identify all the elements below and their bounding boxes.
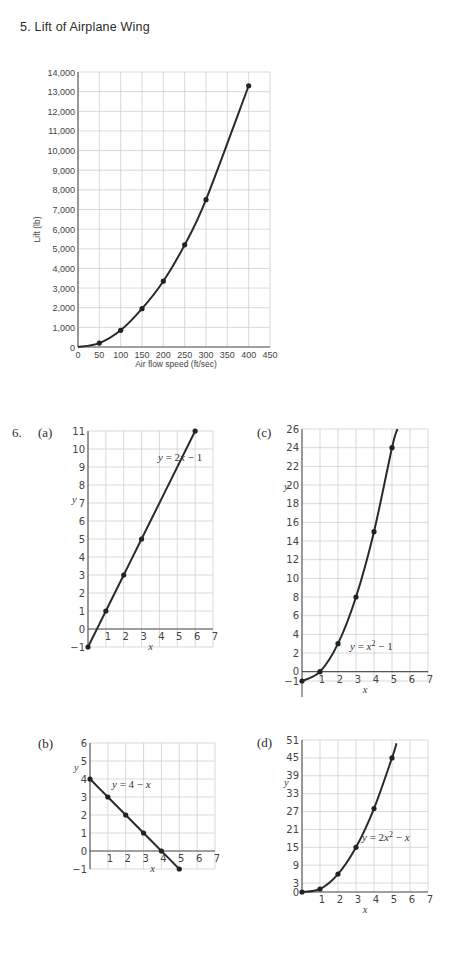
gridlines: [302, 740, 428, 892]
x-tick-label: 1: [105, 631, 111, 642]
x-axis-label: x: [362, 684, 368, 695]
y-tick-label: 27: [286, 806, 299, 817]
data-point: [118, 328, 123, 333]
y-tick-label: 15: [286, 842, 299, 853]
y-tick-label: 4,000: [52, 264, 75, 274]
y-tick-label: 5: [79, 534, 85, 545]
data-point: [353, 594, 358, 599]
x-tick-label: 2: [337, 894, 343, 905]
y-tick-label: 6: [293, 610, 299, 621]
y-tick-label: 26: [286, 424, 299, 435]
y-tick-label: 8: [293, 592, 299, 603]
y-tick-label: 1,000: [52, 323, 75, 333]
data-point: [139, 536, 144, 541]
x-tick-label: 4: [373, 674, 379, 685]
y-tick-label: 4: [81, 774, 87, 785]
equation-label: y = x2 − 1: [349, 639, 393, 653]
data-point: [139, 306, 144, 311]
y-tick-label: 14,000: [47, 68, 75, 78]
data-point: [87, 776, 92, 781]
x-tick-label: 7: [212, 631, 218, 642]
x-tick-label: 6: [196, 853, 202, 864]
y-tick-label: 3: [81, 792, 87, 803]
y-tick-label: 0: [293, 666, 299, 677]
data-point: [299, 678, 304, 683]
y-tick-label: 9,000: [52, 166, 75, 176]
data-point: [105, 794, 110, 799]
x-tick-label: 350: [220, 350, 235, 360]
data-point: [317, 669, 322, 674]
y-tick-label: 4: [293, 629, 299, 640]
x-tick-label: 400: [241, 350, 256, 360]
y-tick-label: 2,000: [52, 303, 75, 313]
data-point: [353, 845, 358, 850]
gridlines: [88, 431, 213, 647]
y-tick-label: 2: [293, 648, 299, 659]
chart-b: −101234561234567xyy = 4 − x: [72, 738, 220, 875]
y-tick-label: 51: [286, 735, 299, 746]
y-tick-label: 7,000: [52, 205, 75, 215]
data-curve: [90, 779, 179, 869]
y-tick-label: 7: [79, 498, 85, 509]
data-point: [85, 644, 90, 649]
y-tick-label: 5,000: [52, 244, 75, 254]
x-tick-label: 5: [176, 631, 182, 642]
data-point: [97, 340, 102, 345]
data-point: [299, 889, 304, 894]
y-tick-label: 33: [286, 788, 299, 799]
y-tick-label: 22: [286, 461, 299, 472]
y-tick-label: 21: [286, 824, 299, 835]
x-tick-label: 3: [355, 674, 361, 685]
data-point: [389, 445, 394, 450]
y-tick-label: 12,000: [47, 107, 75, 117]
y-tick-label: 0: [70, 343, 75, 353]
x-tick-label: 6: [409, 674, 415, 685]
y-tick-label: 13,000: [47, 87, 75, 97]
data-point: [177, 866, 182, 871]
gridlines: [78, 72, 270, 347]
data-point: [121, 572, 126, 577]
y-tick-label: 3,000: [52, 284, 75, 294]
y-tick-label: 3: [79, 570, 85, 581]
x-axis-label: x: [149, 863, 155, 874]
x-tick-label: 450: [262, 350, 277, 360]
x-tick-label: 100: [113, 350, 128, 360]
y-tick-label: 16: [286, 517, 299, 528]
data-point: [159, 848, 164, 853]
x-tick-label: 5: [391, 894, 397, 905]
chart-lift: 01,0002,0003,0004,0005,0006,0007,0008,00…: [32, 68, 278, 370]
y-tick-label: 0: [81, 846, 87, 857]
y-tick-label: −1: [70, 642, 85, 653]
y-tick-label: 2: [81, 810, 87, 821]
data-point: [123, 812, 128, 817]
y-tick-label: 45: [286, 752, 299, 763]
x-tick-label: 1: [107, 853, 113, 864]
data-point: [389, 755, 394, 760]
y-tick-label: 12: [286, 554, 299, 565]
data-point: [141, 830, 146, 835]
chart-c: −1024681012141618202224261234567xyy = x2…: [283, 424, 433, 698]
data-point: [103, 608, 108, 613]
x-axis-label: x: [362, 904, 368, 915]
y-tick-label: 5: [81, 756, 87, 767]
data-curve: [302, 743, 397, 892]
y-tick-label: 8: [79, 480, 85, 491]
y-tick-label: 4: [79, 552, 85, 563]
x-tick-label: 6: [194, 631, 200, 642]
y-tick-label: 14: [286, 536, 299, 547]
x-tick-label: 50: [94, 350, 104, 360]
x-tick-label: 4: [158, 631, 164, 642]
y-axis-label: y: [73, 762, 79, 773]
data-point: [203, 197, 208, 202]
y-tick-label: 11: [72, 426, 85, 437]
data-point: [182, 242, 187, 247]
data-point: [335, 872, 340, 877]
y-axis-label: y: [283, 481, 289, 492]
x-tick-label: 7: [427, 674, 433, 685]
data-point: [371, 529, 376, 534]
data-point: [317, 886, 322, 891]
x-tick-label: 2: [125, 853, 131, 864]
y-tick-label: 9: [293, 860, 299, 871]
data-point: [161, 279, 166, 284]
y-tick-label: 10: [286, 573, 299, 584]
